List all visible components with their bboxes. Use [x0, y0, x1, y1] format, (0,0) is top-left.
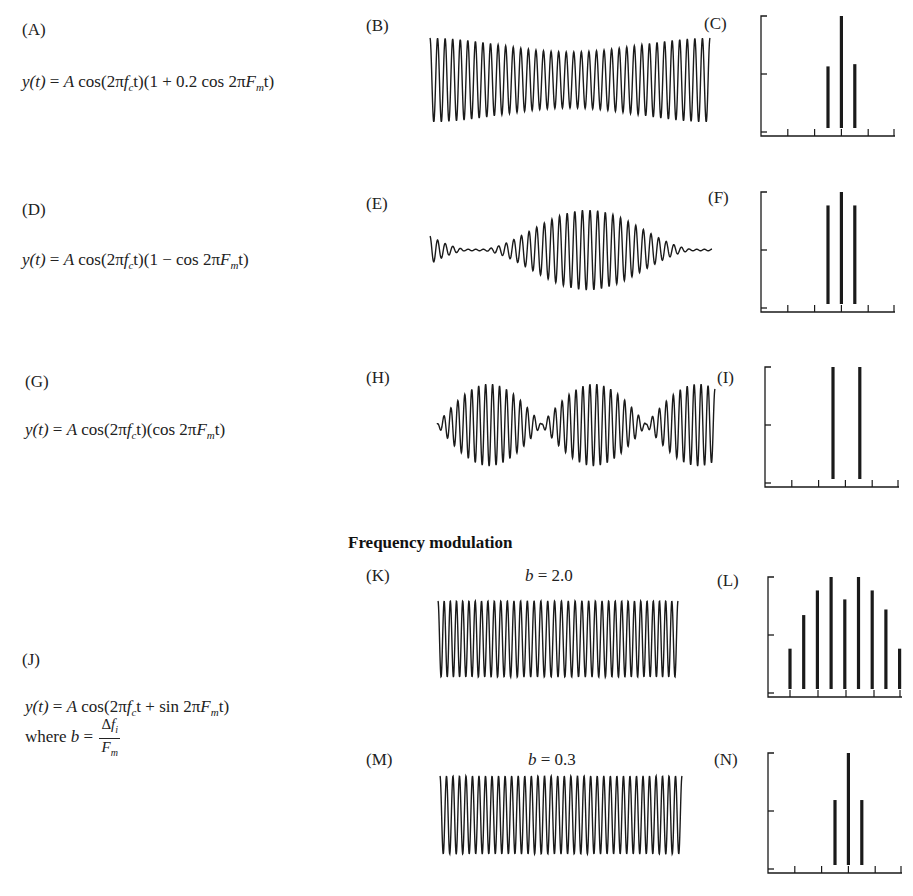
- eq-lhs: y(t): [25, 420, 49, 439]
- num-sub: i: [115, 724, 118, 735]
- b-var: b: [71, 727, 80, 746]
- eq-part: t): [219, 697, 229, 716]
- eq-amplitude: A: [67, 420, 77, 439]
- panel-label-h: (H): [366, 368, 390, 388]
- panel-label-g: (G): [25, 372, 49, 392]
- eq-Fm-sub: m: [256, 81, 264, 93]
- eq-lhs: y(t): [22, 72, 46, 91]
- b-var: b: [528, 750, 537, 769]
- eq-part: t)(cos 2π: [136, 420, 196, 439]
- panel-label-c: (C): [704, 14, 727, 34]
- eq-equals: =: [49, 697, 67, 716]
- eq-equals: =: [49, 420, 67, 439]
- b-num: = 2.0: [534, 566, 573, 585]
- panel-label-m: (M): [366, 750, 392, 770]
- equation-fm: y(t) = A cos(2πfct + sin 2πFmt): [25, 697, 229, 718]
- eq-equals: =: [79, 727, 93, 746]
- panel-label-l: (L): [717, 571, 739, 591]
- fraction-numerator: Δfi: [99, 716, 120, 739]
- where-text: where: [25, 727, 71, 746]
- panel-label-e: (E): [366, 194, 388, 214]
- eq-lhs: y(t): [22, 250, 46, 269]
- delta-symbol: Δ: [101, 716, 111, 732]
- equation-am-full: y(t) = A cos(2πfct)(1 − cos 2πFmt): [22, 250, 249, 271]
- eq-Fm: F: [246, 72, 256, 91]
- eq-amplitude: A: [64, 72, 74, 91]
- b-var: b: [525, 566, 534, 585]
- panel-label-b: (B): [366, 16, 389, 36]
- b-value-k: b = 2.0: [525, 566, 573, 586]
- panel-label-f: (F): [708, 188, 729, 208]
- spectrum-c: [755, 12, 900, 142]
- waveform-e: [430, 210, 712, 290]
- b-num: = 0.3: [537, 750, 576, 769]
- eq-Fm-sub: m: [211, 706, 219, 718]
- eq-part: t): [264, 72, 274, 91]
- eq-equals: =: [46, 72, 64, 91]
- spectrum-n: [762, 749, 907, 879]
- eq-part: cos(2π: [77, 697, 127, 716]
- eq-Fm: F: [220, 250, 230, 269]
- panel-label-k: (K): [366, 566, 390, 586]
- eq-part: t + sin 2π: [136, 697, 200, 716]
- section-title-fm: Frequency modulation: [348, 533, 513, 553]
- eq-part: cos(2π: [77, 420, 127, 439]
- eq-part: t): [215, 420, 225, 439]
- eq-amplitude: A: [67, 697, 77, 716]
- equation-am-02: y(t) = A cos(2πfct)(1 + 0.2 cos 2πFmt): [22, 72, 274, 93]
- panel-label-a: (A): [22, 20, 46, 40]
- waveform-b: [430, 38, 710, 122]
- eq-Fm: F: [196, 420, 206, 439]
- panel-label-j: (J): [22, 650, 40, 670]
- b-value-m: b = 0.3: [528, 750, 576, 770]
- eq-lhs: y(t): [25, 697, 49, 716]
- eq-part: cos(2π: [74, 72, 124, 91]
- equation-dsb: y(t) = A cos(2πfct)(cos 2πFmt): [25, 420, 225, 441]
- spectrum-i: [759, 363, 904, 493]
- eq-equals: =: [46, 250, 64, 269]
- panel-label-d: (D): [22, 200, 46, 220]
- waveform-m: [440, 776, 682, 854]
- fraction-denominator: Fm: [99, 739, 120, 761]
- eq-Fm-sub: m: [207, 429, 215, 441]
- eq-part: cos(2π: [74, 250, 124, 269]
- waveform-h: [437, 384, 715, 466]
- fraction: Δfi Fm: [99, 716, 120, 761]
- waveform-k: [438, 601, 678, 677]
- eq-part: t)(1 − cos 2π: [133, 250, 220, 269]
- den-F: F: [101, 739, 110, 755]
- panel-label-i: (I): [717, 368, 734, 388]
- den-sub: m: [111, 747, 118, 758]
- eq-Fm: F: [200, 697, 210, 716]
- equation-modulation-index: where b = Δfi Fm: [25, 716, 120, 761]
- eq-amplitude: A: [64, 250, 74, 269]
- eq-part: t)(1 + 0.2 cos 2π: [133, 72, 245, 91]
- eq-part: t): [238, 250, 248, 269]
- spectrum-l: [762, 573, 907, 703]
- spectrum-f: [755, 188, 900, 318]
- panel-label-n: (N): [714, 750, 738, 770]
